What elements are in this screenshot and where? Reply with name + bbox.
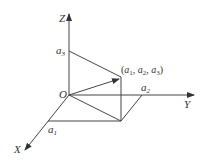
a2-tick-label: a2 xyxy=(141,81,151,95)
a1-tick-label: a1 xyxy=(48,123,57,137)
coordinate-diagram: Z Y X O a3 a2 a1 (a1, a2, a3) xyxy=(0,0,202,164)
position-vector xyxy=(69,79,119,95)
z-axis-label: Z xyxy=(59,12,66,24)
origin-label: O xyxy=(59,88,67,100)
y-axis-label: Y xyxy=(184,98,192,110)
point-label: (a1, a2, a3) xyxy=(121,64,163,77)
x-axis xyxy=(25,95,69,150)
a3-to-point-line xyxy=(69,51,121,77)
a3-tick-label: a3 xyxy=(56,44,66,58)
base-diagonal-line xyxy=(69,95,121,121)
a2-parallel-line xyxy=(121,95,142,121)
x-axis-label: X xyxy=(13,143,22,155)
